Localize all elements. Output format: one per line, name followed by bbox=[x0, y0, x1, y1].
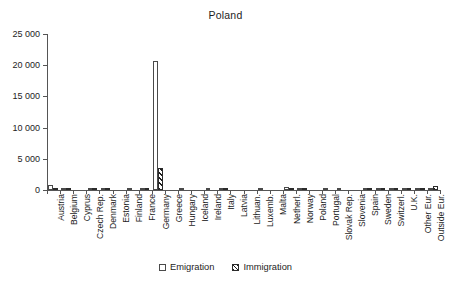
x-axis-label: Portugal bbox=[332, 194, 341, 226]
x-axis-label: Ireland bbox=[214, 194, 223, 220]
x-axis-label: Germany bbox=[162, 194, 171, 229]
bar-immigration bbox=[289, 188, 294, 190]
bar-group bbox=[310, 34, 320, 190]
bar-group bbox=[232, 34, 242, 190]
x-axis-label: Denmark bbox=[109, 194, 118, 229]
bar-group bbox=[337, 34, 347, 190]
plot-area: 05 00010 00015 00020 00025 000 bbox=[47, 34, 440, 190]
bar-group bbox=[61, 34, 71, 190]
x-axis-label: Outside Eur. bbox=[437, 194, 446, 241]
legend-label: Emigration bbox=[170, 262, 214, 272]
bar-group bbox=[48, 34, 58, 190]
bar-immigration bbox=[53, 188, 58, 190]
bar-group bbox=[75, 34, 85, 190]
x-axis-label: Netherl. bbox=[293, 194, 302, 224]
x-axis-label: Finland bbox=[135, 194, 144, 222]
x-axis-label: Slovenia bbox=[358, 194, 367, 227]
bar-emigration bbox=[127, 188, 132, 190]
bar-group bbox=[376, 34, 386, 190]
x-axis-label: Sweden bbox=[384, 194, 393, 225]
x-axis-label: Spain bbox=[371, 194, 380, 216]
bar-group bbox=[389, 34, 399, 190]
chart-title: Poland bbox=[0, 9, 451, 21]
bar-immigration bbox=[223, 188, 228, 190]
y-axis-tick bbox=[43, 128, 47, 129]
bar-emigration bbox=[258, 188, 263, 190]
x-axis-label: Slovak Rep. bbox=[345, 194, 354, 240]
bar-group bbox=[271, 34, 281, 190]
x-axis-label: Belgium bbox=[70, 194, 79, 225]
bar-group bbox=[114, 34, 124, 190]
bar-group bbox=[363, 34, 373, 190]
x-axis-label: Lithuan. bbox=[253, 194, 262, 225]
bar-emigration bbox=[323, 188, 328, 190]
bar-immigration bbox=[433, 186, 438, 190]
x-axis-label: Czech Rep. bbox=[96, 194, 105, 239]
x-axis-label: Latvia bbox=[240, 194, 249, 217]
y-axis-tick-label: 15 000 bbox=[12, 91, 40, 101]
x-axis-label: Austria bbox=[57, 194, 66, 221]
bar-group bbox=[153, 34, 163, 190]
x-axis-label: Other Eur. bbox=[424, 194, 433, 233]
bar-group bbox=[402, 34, 412, 190]
bar-group bbox=[284, 34, 294, 190]
bar-emigration bbox=[337, 188, 342, 190]
y-axis-tick bbox=[43, 34, 47, 35]
x-axis-labels: AustriaBelgiumCyprusCzech Rep.DenmarkEst… bbox=[47, 194, 440, 260]
y-axis-tick bbox=[43, 65, 47, 66]
bar-immigration bbox=[158, 168, 163, 190]
bar-group bbox=[166, 34, 176, 190]
bar-immigration bbox=[66, 188, 71, 190]
y-axis-tick bbox=[43, 159, 47, 160]
x-axis-label: Switzerl. bbox=[397, 194, 406, 226]
chart-legend: EmigrationImmigration bbox=[0, 262, 451, 272]
y-axis-tick-label: 5 000 bbox=[17, 154, 40, 164]
x-axis-label: U.K. bbox=[410, 194, 419, 211]
bar-immigration bbox=[145, 188, 150, 190]
bar-group bbox=[258, 34, 268, 190]
bar-immigration bbox=[394, 188, 399, 190]
bar-group bbox=[206, 34, 216, 190]
x-axis-label: Italy bbox=[227, 194, 236, 210]
bar-group bbox=[245, 34, 255, 190]
x-axis-label: Malta bbox=[279, 194, 288, 215]
y-axis-tick-label: 25 000 bbox=[12, 29, 40, 39]
bar-group bbox=[127, 34, 137, 190]
x-axis-label: Norway bbox=[306, 194, 315, 223]
legend-item[interactable]: Immigration bbox=[232, 262, 292, 272]
x-axis-label: Iceland bbox=[201, 194, 210, 222]
bar-emigration bbox=[206, 188, 211, 190]
bar-immigration bbox=[92, 188, 97, 190]
bar-immigration bbox=[302, 188, 307, 190]
bar-group bbox=[179, 34, 189, 190]
bar-group bbox=[350, 34, 360, 190]
bar-group bbox=[323, 34, 333, 190]
bar-chart: Poland 05 00010 00015 00020 00025 000 Au… bbox=[0, 0, 451, 283]
bar-group bbox=[415, 34, 425, 190]
bar-group bbox=[192, 34, 202, 190]
bar-emigration bbox=[179, 188, 184, 190]
y-axis-tick bbox=[43, 96, 47, 97]
legend-item[interactable]: Emigration bbox=[159, 262, 214, 272]
x-axis-label: France bbox=[148, 194, 157, 221]
y-axis-tick-label: 0 bbox=[35, 185, 40, 195]
x-axis-label: Luxemb. bbox=[266, 194, 275, 227]
bar-group bbox=[88, 34, 98, 190]
open-square-icon bbox=[159, 264, 166, 271]
bar-group bbox=[140, 34, 150, 190]
bar-group bbox=[297, 34, 307, 190]
bar-immigration bbox=[105, 188, 110, 190]
legend-label: Immigration bbox=[243, 262, 292, 272]
x-axis-label: Estonia bbox=[122, 194, 131, 223]
bar-group bbox=[219, 34, 229, 190]
bar-immigration bbox=[407, 188, 412, 190]
bar-group bbox=[428, 34, 438, 190]
y-axis-tick-label: 20 000 bbox=[12, 60, 40, 70]
bar-immigration bbox=[420, 188, 425, 190]
x-axis-label: Poland bbox=[319, 194, 328, 221]
hatched-square-icon bbox=[232, 264, 239, 271]
bar-immigration bbox=[367, 188, 372, 190]
x-axis-label: Greece bbox=[175, 194, 184, 222]
bar-group bbox=[101, 34, 111, 190]
bar-immigration bbox=[381, 188, 386, 190]
